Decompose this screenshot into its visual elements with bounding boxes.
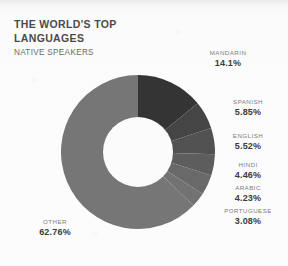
callout-hindi: HINDI4.46% <box>235 162 262 180</box>
callout-category-label: MANDARIN <box>210 50 247 56</box>
callout-category-label: SPANISH <box>233 99 263 105</box>
callout-other: OTHER62.76% <box>39 219 71 237</box>
callout-value-label: 62.76% <box>39 228 71 237</box>
donut-hole <box>103 117 173 187</box>
callout-value-label: 5.52% <box>233 142 263 151</box>
infographic-canvas: THE WORLD'S TOP LANGUAGES NATIVE SPEAKER… <box>0 0 288 266</box>
callout-category-label: OTHER <box>39 219 71 225</box>
callout-portuguese: PORTUGUESE3.08% <box>224 208 272 226</box>
title-block: THE WORLD'S TOP LANGUAGES NATIVE SPEAKER… <box>14 18 117 57</box>
callout-value-label: 14.1% <box>210 59 247 68</box>
callout-value-label: 5.85% <box>233 108 263 117</box>
callout-value-label: 4.46% <box>235 171 262 180</box>
callout-category-label: ARABIC <box>235 185 262 191</box>
callout-category-label: HINDI <box>235 162 262 168</box>
callout-mandarin: MANDARIN14.1% <box>210 50 247 68</box>
callout-category-label: ENGLISH <box>233 133 263 139</box>
callout-english: ENGLISH5.52% <box>233 133 263 151</box>
callout-arabic: ARABIC4.23% <box>235 185 262 203</box>
callout-value-label: 4.23% <box>235 194 262 203</box>
callout-value-label: 3.08% <box>224 217 272 226</box>
callout-category-label: PORTUGUESE <box>224 208 272 214</box>
callout-spanish: SPANISH5.85% <box>233 99 263 117</box>
page-subtitle: NATIVE SPEAKERS <box>14 48 117 57</box>
page-title: THE WORLD'S TOP LANGUAGES <box>14 18 117 45</box>
